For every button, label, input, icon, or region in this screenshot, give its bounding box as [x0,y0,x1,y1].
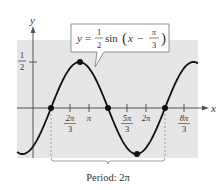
x-tick-label-2pi: 2π [142,113,151,123]
plot-area [17,40,198,158]
svg-text:2: 2 [20,62,25,72]
period-annotation: Period: 2π [86,172,130,183]
sine-graph: y x 1 2 2π 3 π 5π 3 2π 8π 3 Period: [0,0,220,190]
zero-point-pi-3 [48,105,54,111]
svg-text:): ) [161,30,166,47]
x-axis-label: x [210,102,216,114]
svg-text:(: ( [122,30,127,47]
svg-text:3: 3 [125,124,129,134]
svg-text:3: 3 [68,124,72,134]
svg-text:−: − [137,32,143,44]
y-axis-arrow-icon [31,26,36,33]
zero-point-4pi-3 [105,105,111,111]
svg-text:y: y [76,32,82,44]
svg-text:π: π [152,27,157,37]
svg-text:5π: 5π [123,113,132,123]
svg-text:2π: 2π [66,113,75,123]
svg-text:8π: 8π [180,113,189,123]
zero-point-7pi-3 [162,105,168,111]
x-axis-arrow-icon [202,106,209,111]
svg-text:1: 1 [20,50,25,60]
svg-text:1: 1 [97,27,101,37]
svg-text:=: = [85,32,91,44]
y-axis-label: y [29,14,35,26]
svg-text:sin: sin [105,32,118,44]
svg-text:3: 3 [152,40,156,50]
min-point [134,151,140,157]
svg-text:2: 2 [97,40,101,50]
x-tick-label-pi: π [87,113,92,123]
svg-text:3: 3 [182,124,186,134]
max-point [77,59,83,65]
svg-text:x: x [127,32,133,44]
